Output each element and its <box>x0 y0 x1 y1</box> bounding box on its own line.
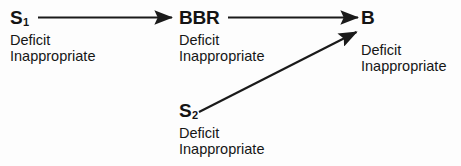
node-s1-attributes: Deficit Inappropriate <box>10 32 95 64</box>
node-s2-label: S2 <box>179 101 264 123</box>
node-s2-label-main: S <box>179 100 191 121</box>
flow-diagram: S1 Deficit Inappropriate BBR Deficit Ina… <box>0 0 461 166</box>
node-s1: S1 Deficit Inappropriate <box>10 8 95 64</box>
node-b-attribute-inappropriate: Inappropriate <box>361 58 446 74</box>
node-s2-label-subscript: 2 <box>192 109 198 121</box>
node-bbr-attribute-deficit: Deficit <box>179 32 264 48</box>
node-bbr-attribute-inappropriate: Inappropriate <box>179 48 264 64</box>
node-b-attribute-deficit: Deficit <box>361 42 446 58</box>
node-bbr-attributes: Deficit Inappropriate <box>179 32 264 64</box>
node-bbr: BBR Deficit Inappropriate <box>179 8 264 64</box>
node-s1-attribute-deficit: Deficit <box>10 32 95 48</box>
node-s2-attribute-inappropriate: Inappropriate <box>179 141 264 157</box>
node-s1-label: S1 <box>10 8 95 30</box>
node-b-label-main: B <box>361 7 375 28</box>
node-s1-label-subscript: 1 <box>23 16 29 28</box>
node-s1-label-main: S <box>10 7 22 28</box>
node-b: B Deficit Inappropriate <box>361 8 446 74</box>
node-s2-attributes: Deficit Inappropriate <box>179 125 264 157</box>
node-b-attributes: Deficit Inappropriate <box>361 42 446 74</box>
node-bbr-label-main: BBR <box>179 7 220 28</box>
node-b-label: B <box>361 8 446 30</box>
node-s2: S2 Deficit Inappropriate <box>179 101 264 157</box>
node-bbr-label: BBR <box>179 8 264 30</box>
node-s2-attribute-deficit: Deficit <box>179 125 264 141</box>
node-s1-attribute-inappropriate: Inappropriate <box>10 48 95 64</box>
